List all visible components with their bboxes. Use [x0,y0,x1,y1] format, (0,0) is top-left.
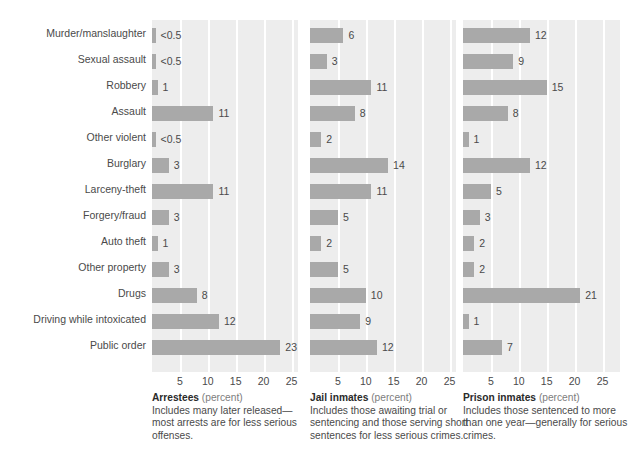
category-label: Other violent [0,132,146,143]
bar [463,236,474,251]
grouped-bar-chart: Murder/manslaughterSexual assaultRobbery… [0,0,642,476]
category-label: Other property [0,262,146,273]
x-axis-tick-label: 20 [258,374,270,388]
bar-row: 1 [463,310,620,336]
category-label: Sexual assault [0,54,146,65]
bar [152,210,169,225]
bar-row: 3 [152,206,298,232]
x-axis-tick-label: 10 [360,374,372,388]
bar-value-label: 9 [365,314,371,329]
x-axis-tick-label: 5 [488,374,494,388]
bar-row: 11 [152,180,298,206]
caption-title-jail-inmates: Jail inmates [310,392,368,403]
panel-arrestees: <0.5<0.5111<0.531131381223 [152,20,298,372]
bar-value-label: 14 [393,158,405,173]
bar-value-label: 8 [360,106,366,121]
bar [310,340,377,355]
x-axis-tick-label: 20 [416,374,428,388]
category-label: Auto theft [0,236,146,247]
bar-value-label: 5 [343,262,349,277]
bar-row: 2 [310,232,456,258]
bar [152,54,156,69]
bar [152,314,219,329]
bar-value-label: 1 [474,132,480,147]
category-label: Drugs [0,288,146,299]
x-axis-tick-label: 20 [569,374,581,388]
bar [310,184,371,199]
caption-body-arrestees: Includes many later released—most arrest… [152,405,310,443]
bar-value-label: 2 [479,236,485,251]
bar-value-label: 2 [326,132,332,147]
bar-value-label: 5 [343,210,349,225]
bar-value-label: 3 [485,210,491,225]
bar-row: 12 [463,24,620,50]
bar [152,340,280,355]
bar-value-label: 2 [326,236,332,251]
bar [310,158,388,173]
bar [463,184,491,199]
bar-value-label: 1 [163,80,169,95]
bar-value-label: 8 [202,288,208,303]
category-label: Robbery [0,80,146,91]
bar [463,262,474,277]
bar-row: 8 [310,102,456,128]
bar-value-label: 9 [518,54,524,69]
bar-value-label: 3 [332,54,338,69]
x-axis-tick-label: 5 [335,374,341,388]
bar-row: 1 [152,232,298,258]
x-axis-tick-label: 5 [177,374,183,388]
bar-row: 11 [152,102,298,128]
x-axis-tick-label: 25 [286,374,298,388]
bar-row: 14 [310,154,456,180]
bar [152,288,197,303]
bar-row: 10 [310,284,456,310]
bar-row: 11 [310,180,456,206]
x-axis-tick-label: 10 [202,374,214,388]
bar-row: 9 [310,310,456,336]
bar-row: 3 [310,50,456,76]
caption-body-jail-inmates: Includes those awaiting trial or sentenc… [310,405,468,443]
bar-value-label: 6 [348,28,354,43]
bar [310,80,371,95]
caption-unit-arrestees: (percent) [202,392,243,403]
bar-value-label: 15 [552,80,564,95]
bar-value-label: 12 [535,28,547,43]
bar-value-label: <0.5 [161,28,182,43]
caption-arrestees: Arrestees (percent) Includes many later … [152,392,310,442]
x-axis-prison-inmates: 510152025 [463,374,620,388]
panel-prison-inmates: 12915811253222117 [463,20,620,372]
bar-value-label: 23 [285,340,297,355]
x-axis-tick-label: 15 [388,374,400,388]
bar-row: 3 [463,206,620,232]
bar-value-label: 11 [218,106,229,121]
bar [152,132,156,147]
caption-body-prison-inmates: Includes those sentenced to more than on… [463,405,632,443]
x-axis-jail-inmates: 510152025 [310,374,456,388]
bar-row: 9 [463,50,620,76]
bar [310,106,355,121]
bar-value-label: <0.5 [161,54,182,69]
bar-value-label: 12 [382,340,394,355]
bar-row: 2 [463,232,620,258]
caption-jail-inmates: Jail inmates (percent) Includes those aw… [310,392,468,442]
bar [463,54,513,69]
bar [152,106,213,121]
bar-row: 12 [310,336,456,362]
bar-value-label: 1 [163,236,169,251]
caption-unit-jail-inmates: (percent) [371,392,412,403]
bar-value-label: 3 [174,262,180,277]
bar-row: <0.5 [152,128,298,154]
bar-value-label: 3 [174,210,180,225]
caption-prison-inmates: Prison inmates (percent) Includes those … [463,392,632,442]
bar-value-label: 7 [507,340,513,355]
bar [310,236,321,251]
bar-row: 7 [463,336,620,362]
bar-row: 2 [463,258,620,284]
bar-value-label: 1 [474,314,480,329]
category-label-column: Murder/manslaughterSexual assaultRobbery… [0,20,146,372]
bar-row: 3 [152,258,298,284]
bar-value-label: 12 [224,314,236,329]
bar [463,314,469,329]
bar-row: 2 [310,128,456,154]
bar [463,132,469,147]
